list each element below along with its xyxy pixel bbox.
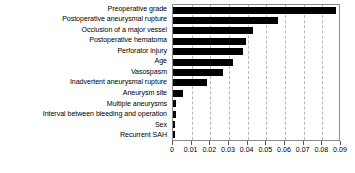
bar-series — [173, 5, 339, 140]
axis-tick-label: 0.04 — [240, 147, 254, 154]
category-label: Age — [0, 57, 170, 68]
category-label: Preoperative grade — [0, 4, 170, 15]
category-label: Aneurysm site — [0, 88, 170, 99]
bar — [173, 111, 176, 118]
axis-tick — [340, 141, 341, 145]
bar — [173, 27, 253, 34]
bar — [173, 121, 175, 128]
bar-row — [173, 15, 339, 25]
bar — [173, 59, 233, 66]
axis-tick-label: 0.07 — [296, 147, 310, 154]
category-label: Multiple aneurysms — [0, 99, 170, 110]
bar — [173, 90, 183, 97]
category-label: Vasospasm — [0, 67, 170, 78]
axis-tick-label: 0 — [170, 147, 174, 154]
category-label: Occlusion of a major vessel — [0, 25, 170, 36]
category-label: Inadvertent aneurysmal rupture — [0, 78, 170, 89]
horizontal-bar-chart: Preoperative gradePostoperative aneurysm… — [0, 0, 355, 173]
category-axis-labels: Preoperative gradePostoperative aneurysm… — [0, 4, 170, 141]
category-label: Postoperative hematoma — [0, 36, 170, 47]
bar-row — [173, 57, 339, 67]
category-label: Interval between bleeding and operation — [0, 109, 170, 120]
axis-tick-label: 0.08 — [314, 147, 328, 154]
axis-tick-label: 0.05 — [258, 147, 272, 154]
plot-area — [172, 4, 340, 141]
axis-tick-label: 0.01 — [184, 147, 198, 154]
bar — [173, 79, 207, 86]
bar — [173, 69, 223, 76]
axis-tick-label: 0.06 — [277, 147, 291, 154]
bar — [173, 7, 336, 14]
bar-row — [173, 130, 339, 140]
bar-row — [173, 119, 339, 129]
bar-row — [173, 88, 339, 98]
x-axis-tick-labels: 00.010.020.030.040.050.060.070.080.09 — [0, 147, 355, 161]
bar — [173, 100, 176, 107]
bar — [173, 48, 243, 55]
axis-tick — [247, 141, 248, 145]
bar-row — [173, 99, 339, 109]
bar — [173, 38, 246, 45]
axis-tick — [191, 141, 192, 145]
bar-row — [173, 78, 339, 88]
axis-tick — [284, 141, 285, 145]
bar-row — [173, 5, 339, 15]
axis-tick-label: 0.03 — [221, 147, 235, 154]
axis-tick — [265, 141, 266, 145]
axis-tick — [303, 141, 304, 145]
axis-tick-label: 0.09 — [333, 147, 347, 154]
axis-tick — [321, 141, 322, 145]
category-label: Recurrent SAH — [0, 130, 170, 141]
category-label: Postoperative aneurysmal rupture — [0, 15, 170, 26]
bar-row — [173, 26, 339, 36]
bar-row — [173, 36, 339, 46]
axis-tick — [209, 141, 210, 145]
axis-tick-label: 0.02 — [202, 147, 216, 154]
category-label: Perforator injury — [0, 46, 170, 57]
bar-row — [173, 47, 339, 57]
category-label: Sex — [0, 120, 170, 131]
bar-row — [173, 109, 339, 119]
bar-row — [173, 67, 339, 77]
axis-tick — [228, 141, 229, 145]
bar — [173, 131, 175, 138]
axis-tick — [172, 141, 173, 145]
bar — [173, 17, 278, 24]
